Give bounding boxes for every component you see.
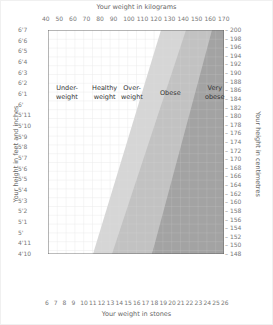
y-left-tick: 5'10 [18,122,31,129]
x-top-tick: 140 [177,15,188,22]
y-right-tick: – 166 [225,172,241,179]
label-line: weight [121,93,143,102]
x-bottom-tick: 9 [71,299,75,306]
x-bottom-tick: 6 [45,299,49,306]
x-bottom-tick: 12 [98,299,106,306]
bmi-chart-plot [48,30,224,254]
x-bottom-tick: 26 [221,299,229,306]
y-right-tick: – 184 [225,95,241,102]
y-left-tick: 5'8 [18,143,27,150]
y-right-tick: – 156 [225,216,241,223]
y-right-tick: – 186 [225,86,241,93]
y-left-tick: 4'10 [18,250,31,257]
y-left-tick: 5'5 [18,175,27,182]
y-left-tick: 6' [18,101,23,108]
x-top-tick: 90 [110,15,118,22]
x-bottom-tick: 23 [195,299,203,306]
y-right-tick: – 194 [225,52,241,59]
y-left-tick: 5'6 [18,165,27,172]
x-bottom-tick: 7 [54,299,58,306]
label-line: Healthy [92,84,117,93]
y-right-tick: – 158 [225,207,241,214]
y-right-tick: – 164 [225,181,241,188]
x-bottom-tick: 13 [107,299,115,306]
y-right-tick: – 176 [225,129,241,136]
x-bottom-tick: 17 [142,299,150,306]
x-bottom-tick: 18 [151,299,159,306]
y-left-tick: 6'2 [18,79,27,86]
region-label-underweight: Under- weight [56,84,78,102]
y-right-tick: – 168 [225,164,241,171]
y-right-tick: – 170 [225,155,241,162]
y-right-axis-title: Your height in centimetres [254,94,262,214]
x-top-tick: 120 [150,15,161,22]
x-bottom-tick: 11 [89,299,97,306]
x-top-axis-title: Your weight in kilograms [0,3,273,11]
y-left-tick: 6'3 [18,69,27,76]
y-right-tick: – 174 [225,138,241,145]
region-label-healthy: Healthy weight [92,84,117,102]
y-left-tick: 4'11 [18,239,31,246]
y-left-tick: 5'1 [18,218,27,225]
region-label-very-obese: Very obese [205,84,225,102]
x-bottom-tick: 22 [186,299,194,306]
y-right-tick: – 178 [225,121,241,128]
x-top-tick: 170 [218,15,229,22]
y-left-tick: 6'1 [18,90,27,97]
x-top-tick: 100 [123,15,134,22]
x-top-tick: 80 [96,15,104,22]
x-top-tick: 130 [164,15,175,22]
region-label-obese: Obese [160,89,181,97]
y-left-tick: 5'3 [18,197,27,204]
x-top-tick: 40 [42,15,50,22]
x-bottom-tick: 21 [177,299,185,306]
x-bottom-tick: 8 [63,299,67,306]
y-right-tick: – 150 [225,241,241,248]
label-line: weight [56,93,78,102]
x-bottom-tick: 10 [80,299,88,306]
x-bottom-tick: 14 [115,299,123,306]
y-left-tick: 6'5 [18,47,27,54]
y-left-tick: 5' [18,229,23,236]
y-left-tick: 5'2 [18,207,27,214]
x-top-tick: 70 [83,15,91,22]
x-bottom-tick: 25 [212,299,220,306]
x-top-tick: 60 [69,15,77,22]
y-right-tick: – 162 [225,190,241,197]
y-left-tick: 6'7 [18,26,27,33]
x-top-tick: 110 [137,15,148,22]
x-bottom-tick: 24 [203,299,211,306]
y-left-tick: 6'4 [18,58,27,65]
y-left-tick: 5'4 [18,186,27,193]
label-line: Over- [121,84,143,93]
x-bottom-tick: 19 [159,299,167,306]
y-right-tick: – 154 [225,224,241,231]
y-right-tick: – 180 [225,112,241,119]
y-right-tick: – 152 [225,233,241,240]
x-bottom-tick: 20 [168,299,176,306]
y-right-tick: – 200 [225,26,241,33]
y-left-tick: 5'9 [18,133,27,140]
label-line: weight [92,93,117,102]
y-left-tick: 5'11 [18,111,31,118]
label-line: obese [205,93,225,102]
y-right-tick: – 190 [225,69,241,76]
y-right-tick: – 198 [225,35,241,42]
y-right-tick: – 160 [225,198,241,205]
x-bottom-tick: 15 [124,299,132,306]
x-top-tick: 160 [204,15,215,22]
y-right-tick: – 172 [225,147,241,154]
region-label-overweight: Over- weight [121,84,143,102]
label-line: Under- [56,84,78,93]
y-right-tick: – 148 [225,250,241,257]
x-bottom-axis-title: Your weight in stones [0,310,273,318]
x-bottom-tick: 16 [133,299,141,306]
y-right-tick: – 196 [225,43,241,50]
x-top-tick: 50 [56,15,64,22]
label-line: Very [205,84,225,93]
y-left-tick: 5'7 [18,154,27,161]
y-left-tick: 6'6 [18,37,27,44]
y-right-tick: – 182 [225,104,241,111]
y-right-tick: – 188 [225,78,241,85]
y-right-tick: – 192 [225,60,241,67]
